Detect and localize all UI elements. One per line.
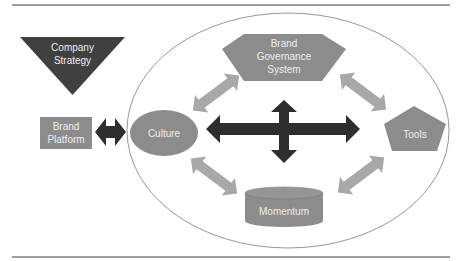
culture-label: Culture — [148, 128, 181, 139]
cylinder-top-shape — [245, 187, 323, 199]
double-arrow-tools-momentum-icon — [331, 149, 391, 201]
double-arrow-culture-governance-icon — [186, 67, 246, 119]
company-strategy-label-line1: Company — [51, 42, 94, 53]
four-way-arrow-icon — [206, 100, 360, 163]
node-tools: Tools — [384, 106, 446, 151]
company-strategy-label-line2: Strategy — [54, 55, 91, 66]
double-arrow-icon — [95, 118, 126, 146]
node-momentum: Momentum — [245, 187, 323, 227]
node-brand-platform: Brand Platform — [40, 117, 92, 149]
double-arrow-culture-momentum-icon — [184, 150, 244, 202]
brand-system-diagram: Company Strategy Brand Platform Culture … — [0, 0, 464, 261]
brand-governance-label-line3: System — [267, 64, 300, 75]
node-culture: Culture — [130, 110, 198, 156]
node-company-strategy: Company Strategy — [20, 37, 125, 95]
brand-platform-label-line1: Brand — [53, 121, 80, 132]
tools-label: Tools — [403, 129, 426, 140]
brand-governance-label-line1: Brand — [271, 38, 298, 49]
brand-platform-label-line2: Platform — [47, 134, 84, 145]
double-arrow-governance-tools-icon — [333, 66, 393, 118]
brand-governance-label-line2: Governance — [257, 51, 312, 62]
momentum-label: Momentum — [259, 206, 309, 217]
node-brand-governance-system: Brand Governance System — [222, 34, 346, 81]
